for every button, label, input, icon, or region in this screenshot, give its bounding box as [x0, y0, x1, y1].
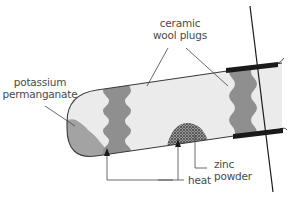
label-ceramic-wool-plugs: ceramic wool plugs: [150, 17, 210, 41]
heat-bracket: [107, 156, 173, 180]
label-line: permanganate: [0, 88, 80, 100]
label-line: potassium: [0, 76, 80, 88]
label-heat: heat: [188, 174, 211, 186]
label-line: ceramic: [150, 17, 210, 29]
label-line: zinc: [214, 158, 252, 170]
test-tube: [60, 58, 287, 170]
label-line: wool plugs: [150, 29, 210, 41]
label-potassium-permanganate: potassium permanganate: [0, 76, 80, 100]
label-line: powder: [214, 170, 252, 182]
label-zinc-powder: zinc powder: [214, 158, 252, 182]
